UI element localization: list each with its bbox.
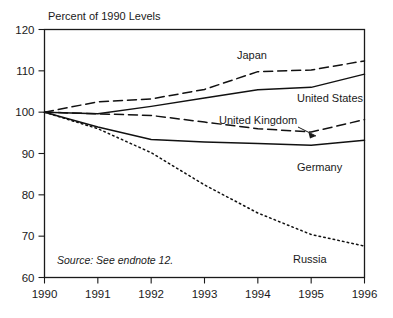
y-tick-70: 70 <box>22 230 35 242</box>
series-line-russia <box>45 112 365 246</box>
uk-pointer-arrowhead <box>309 133 317 139</box>
source-note: Source: See endnote 12. <box>57 254 173 266</box>
y-axis-title: Percent of 1990 Levels <box>48 10 161 22</box>
series-label-united-states: United States <box>297 92 364 104</box>
x-tick-1992: 1992 <box>138 288 164 300</box>
y-axis-tick-labels: 60708090100110120 <box>15 24 34 284</box>
series-label-russia: Russia <box>293 253 328 265</box>
y-tick-60: 60 <box>22 272 35 284</box>
y-tick-110: 110 <box>16 65 34 77</box>
series-label-japan: Japan <box>237 49 267 61</box>
plot-frame <box>45 30 365 278</box>
y-tick-90: 90 <box>22 148 35 160</box>
series-label-germany: Germany <box>297 161 343 173</box>
chart-container: Percent of 1990 Levels 60708090100110120… <box>0 0 393 318</box>
y-tick-120: 120 <box>15 24 34 36</box>
x-tick-1995: 1995 <box>298 288 324 300</box>
x-tick-1991: 1991 <box>85 288 111 300</box>
x-tick-1996: 1996 <box>352 288 378 300</box>
series-lines <box>45 61 365 246</box>
line-chart: Percent of 1990 Levels 60708090100110120… <box>0 0 393 318</box>
series-label-united-kingdom: United Kingdom <box>219 114 297 126</box>
y-axis-ticks <box>39 30 45 278</box>
x-tick-1994: 1994 <box>245 288 271 300</box>
x-tick-1993: 1993 <box>192 288 218 300</box>
y-tick-100: 100 <box>15 106 34 118</box>
x-axis-ticks <box>45 278 365 284</box>
x-tick-1990: 1990 <box>32 288 58 300</box>
series-line-germany <box>45 112 365 145</box>
series-line-united-kingdom <box>45 112 365 132</box>
y-tick-80: 80 <box>22 189 35 201</box>
x-axis-tick-labels: 1990199119921993199419951996 <box>32 288 378 300</box>
